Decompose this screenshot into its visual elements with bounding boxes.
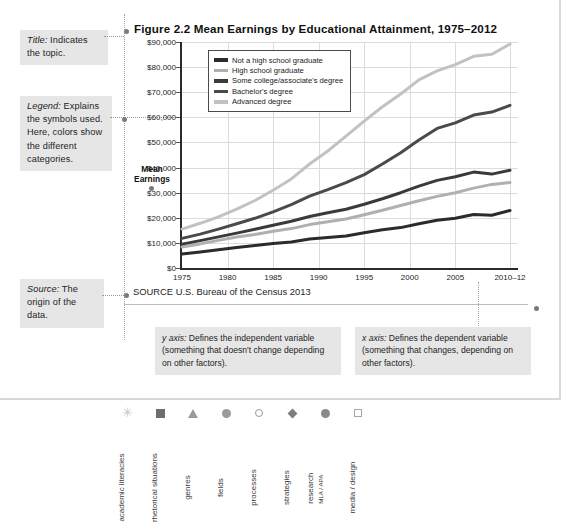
annotation-source: Source: The origin of the data. [20,279,104,328]
legend-item: High school graduate [214,65,343,75]
icon-strip-label: genres [183,476,193,500]
leader-line-source [102,295,124,296]
icon-strip-item[interactable]: researchMLA / APA [310,406,340,420]
y-axis-tick-label: $60,000 [120,113,176,122]
y-axis-tick-label: $40,000 [120,164,176,173]
shape-glyph [222,409,231,418]
filled-circle-icon [211,406,241,420]
icon-strip-item[interactable]: genres [178,406,208,420]
chart-legend: Not a high school graduateHigh school gr… [208,50,351,112]
filled-triangle-icon [178,406,208,420]
x-axis-tick-label: 1975 [173,273,191,282]
icon-strip-label: rhetorical situations [150,454,160,522]
hollow-circle-icon [244,406,274,420]
icon-strip-label-wrap: fields [211,424,241,488]
x-axis-tick-label: 1985 [264,273,282,282]
asterisk-glyph: ✳ [122,407,133,419]
annotation-legend: Legend: Explains the symbols used. Here,… [20,96,112,171]
icon-strip-label-wrap: academic literacies [112,424,142,488]
y-axis-tick-label: $90,000 [120,38,176,47]
icon-strip-label-wrap: processes [244,424,274,488]
legend-swatch [214,79,228,83]
x-axis-tick-label: 1995 [355,273,373,282]
series-line [182,211,510,254]
annotation-y-axis-label: y axis: [162,333,186,343]
icon-strip-label: strategies [282,471,292,506]
filled-square-icon [145,406,175,420]
legend-label: High school graduate [232,66,304,75]
legend-label: Some college/associate's degree [232,76,343,85]
leader-line-title [104,36,124,37]
legend-swatch [214,58,228,62]
icon-strip-label: processes [249,470,259,506]
y-axis-tick-label: $30,000 [120,189,176,198]
filled-circle-dark-icon [310,406,340,420]
y-axis-tick-label: $20,000 [120,214,176,223]
icon-strip-item[interactable]: processes [244,406,274,420]
icon-strip-label-wrap: media / design [343,424,373,488]
annotation-title: Title: Indicates the topic. [20,30,108,65]
shape-glyph [255,409,263,417]
shape-glyph [321,409,330,418]
icon-strip-sublabel: MLA / APA [315,472,325,503]
figure-title: Figure 2.2 Mean Earnings by Educational … [134,22,497,35]
icon-strip-label-wrap: researchMLA / APA [310,424,340,488]
legend-item: Some college/associate's degree [214,76,343,86]
annotation-source-label: Source: [27,284,59,294]
figure-rule [124,304,528,305]
x-axis-tick-label: 2010–12 [494,273,525,282]
figure-block: Figure 2.2 Mean Earnings by Educational … [124,18,534,308]
shape-glyph [287,408,297,418]
x-axis-tick-label: 1990 [310,273,328,282]
annotation-y-axis-text: Defines the independent variable (someth… [162,333,324,368]
y-axis-tick-label: $0 [120,264,176,273]
bullet-title-marker [124,29,129,34]
legend-swatch [214,90,228,94]
annotation-x-axis-label: x axis: [362,333,386,343]
figure-source: SOURCE U.S. Bureau of the Census 2013 [133,286,311,297]
bottom-divider [0,398,561,400]
filled-diamond-icon [277,406,307,420]
shape-glyph [156,409,165,418]
legend-swatch [214,69,228,73]
icon-strip-item[interactable]: rhetorical situations [145,406,175,420]
legend-label: Bachelor's degree [232,87,293,96]
icon-strip-label: media / design [348,462,358,514]
y-axis-tick-label: $10,000 [120,239,176,248]
x-axis-tick-label: 1980 [219,273,237,282]
icon-strip-label-wrap: genres [178,424,208,488]
icon-strip-item[interactable]: strategies [277,406,307,420]
y-axis-tick-label: $50,000 [120,138,176,147]
plot-area: $0$10,000$20,000$30,000$40,000$50,000$60… [180,42,518,270]
icon-strip-label: academic literacies [117,454,127,522]
shape-glyph [354,409,362,417]
icon-strip-label: fields [216,479,226,498]
icon-strip-item[interactable]: ✳academic literacies [112,406,142,420]
annotation-y-axis: y axis: Defines the independent variable… [155,327,341,375]
icon-strip-item[interactable]: fields [211,406,241,420]
icon-strip-label: researchMLA / APA [306,472,325,503]
y-axis-title-line2: Earnings [134,174,170,184]
x-axis-tick-label: 2005 [446,273,464,282]
shape-glyph [188,409,198,418]
icon-strip-label-wrap: strategies [277,424,307,488]
legend-item: Bachelor's degree [214,86,343,96]
annotation-x-axis: x axis: Defines the dependent variable (… [355,327,531,375]
bullet-x-axis-marker [534,306,539,311]
annotation-legend-label: Legend: [27,101,61,111]
legend-label: Not a high school graduate [232,56,323,65]
icon-strip-label-wrap: rhetorical situations [145,424,175,488]
y-axis-tick-label: $70,000 [120,88,176,97]
legend-item: Not a high school graduate [214,55,343,65]
annotation-title-label: Title: [27,35,47,45]
icon-strip: ✳academic literaciesrhetorical situation… [112,406,372,488]
legend-swatch [214,100,228,104]
bullet-source-marker [124,293,129,298]
legend-item: Advanced degree [214,97,343,107]
x-axis-tick-label: 2000 [401,273,419,282]
icon-strip-item[interactable]: media / design [343,406,373,420]
hollow-square-icon [343,406,373,420]
legend-label: Advanced degree [232,97,292,106]
y-axis-tick-label: $80,000 [120,63,176,72]
